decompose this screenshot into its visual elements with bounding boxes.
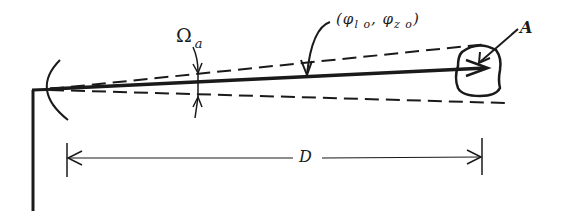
- beam-axis-arrow: [50, 60, 488, 89]
- omega-subscript: a: [195, 36, 203, 51]
- antenna-beam-diagram: Ωa (φl o, φz o) A D: [0, 0, 565, 217]
- omega-symbol: Ω: [176, 24, 192, 46]
- distance-dimension: [67, 138, 482, 177]
- paren-close: ): [413, 10, 420, 28]
- upper-beam-edge: [50, 44, 488, 89]
- distance-label: D: [295, 149, 316, 165]
- separator: ,: [371, 10, 383, 28]
- phi-z-symbol: φ: [383, 10, 395, 28]
- direction-label: (φl o, φz o): [336, 12, 420, 27]
- direction-leader-arrow: [301, 22, 330, 75]
- area-label: A: [520, 20, 532, 36]
- lower-beam-edge: [50, 90, 505, 103]
- solid-angle-label: Ωa: [176, 26, 203, 45]
- phi-z-subscript: z o: [394, 18, 413, 31]
- phi-l-subscript: l o: [354, 18, 371, 31]
- phi-l-symbol: φ: [343, 10, 355, 28]
- paren-open: (: [336, 10, 343, 28]
